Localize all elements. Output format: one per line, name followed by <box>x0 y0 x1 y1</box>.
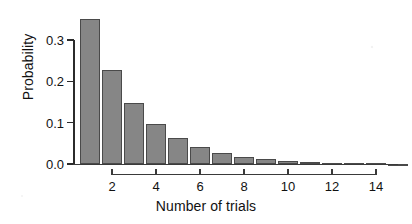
x-tick-mark <box>375 169 376 175</box>
x-tick-label: 12 <box>312 180 352 194</box>
bar <box>124 103 144 164</box>
x-tick-mark <box>199 169 200 175</box>
x-axis-line <box>73 164 398 165</box>
x-tick-label: 2 <box>92 180 132 194</box>
x-tick-mark <box>287 169 288 175</box>
bar <box>146 124 166 164</box>
x-tick-label: 6 <box>180 180 220 194</box>
x-tick-label: 8 <box>224 180 264 194</box>
bar <box>212 153 232 164</box>
x-tick-mark <box>331 169 332 175</box>
probability-bar-chart: Probability 0.00.10.20.3 2468101214 Numb… <box>0 0 412 224</box>
x-axis-title: Number of trials <box>0 198 412 214</box>
x-tick-label: 14 <box>356 180 396 194</box>
x-tick-mark <box>111 169 112 175</box>
x-tick-mark <box>243 169 244 175</box>
bar <box>168 138 188 164</box>
bar <box>102 70 122 164</box>
bar <box>80 19 100 164</box>
x-tick-label: 4 <box>136 180 176 194</box>
x-tick-label: 10 <box>268 180 308 194</box>
bar <box>190 147 210 164</box>
x-tick-mark <box>155 169 156 175</box>
